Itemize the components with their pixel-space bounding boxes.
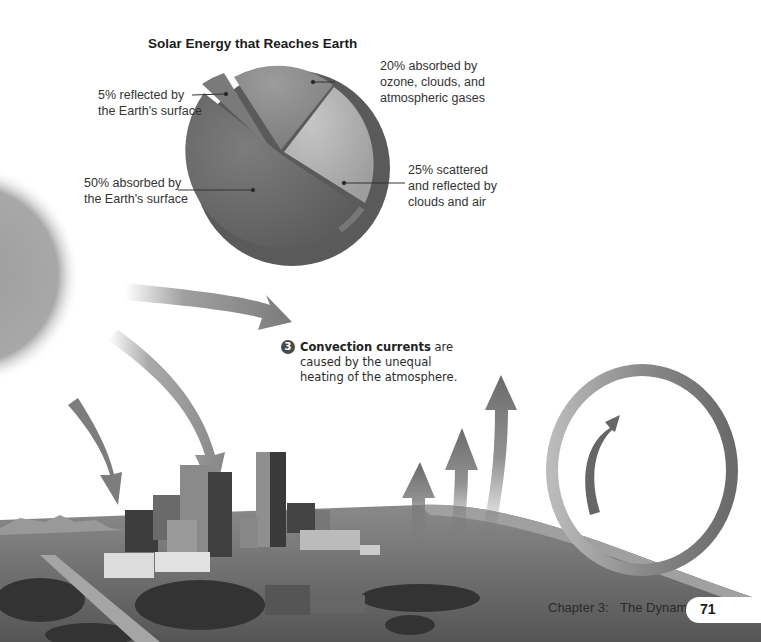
chart-title: Solar Energy that Reaches Earth xyxy=(148,36,357,51)
page-number: 71 xyxy=(700,601,716,617)
callout-bold-term: Convection currents xyxy=(300,340,431,354)
chapter-label: Chapter 3: xyxy=(548,600,609,615)
convection-callout: 3 Convection currents are caused by the … xyxy=(300,340,500,385)
step-number-badge: 3 xyxy=(281,340,295,354)
page-number-tab xyxy=(686,597,761,623)
label-25-percent: 25% scattered and reflected by clouds an… xyxy=(408,162,497,210)
label-50-percent: 50% absorbed by the Earth's surface xyxy=(84,175,188,207)
label-20-percent: 20% absorbed by ozone, clouds, and atmos… xyxy=(380,58,485,106)
label-5-percent: 5% reflected by the Earth's surface xyxy=(98,87,202,119)
